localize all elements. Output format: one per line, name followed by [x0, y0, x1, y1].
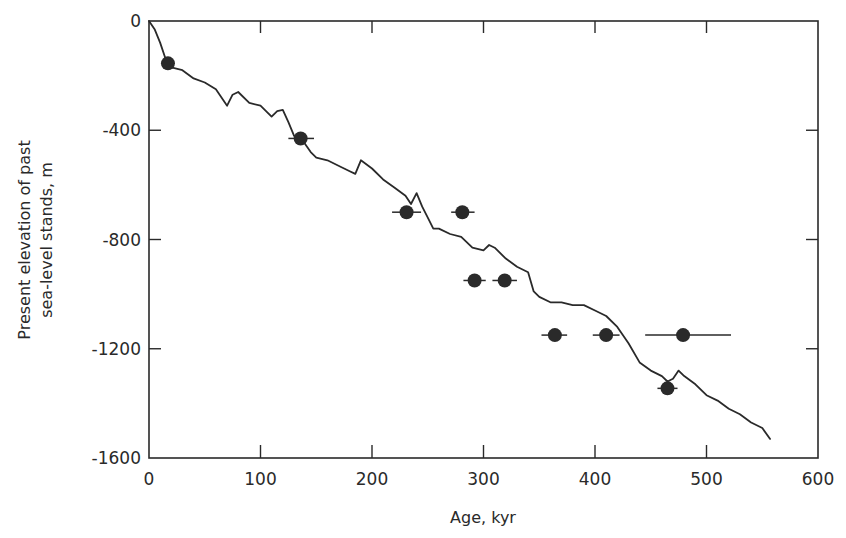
- y-tick-label: -1600: [92, 448, 141, 468]
- point-marker: [498, 273, 512, 287]
- x-tick-label: 400: [579, 469, 611, 489]
- data-point: [161, 56, 175, 70]
- data-point: [392, 205, 421, 219]
- point-marker: [599, 328, 613, 342]
- point-marker: [468, 273, 482, 287]
- x-axis-title: Age, kyr: [450, 508, 516, 527]
- x-tick-label: 600: [802, 469, 834, 489]
- point-marker: [400, 205, 414, 219]
- plot-border: [149, 21, 818, 458]
- data-point: [451, 205, 474, 219]
- x-tick-label: 500: [690, 469, 722, 489]
- data-point: [463, 273, 485, 287]
- y-tick-label: -800: [102, 230, 141, 250]
- x-tick-label: 0: [144, 469, 155, 489]
- y-axis-title-line2: sea-level stands, m: [37, 162, 56, 318]
- chart: 0100200300400500600 0-400-800-1200-1600 …: [0, 0, 846, 538]
- y-tick-label: -400: [102, 120, 141, 140]
- point-marker: [676, 328, 690, 342]
- elevation-curve: [149, 21, 770, 439]
- data-point: [593, 328, 620, 342]
- plot-frame: [149, 21, 818, 458]
- x-tick-label: 100: [244, 469, 276, 489]
- y-tick-label: 0: [130, 11, 141, 31]
- data-points: [161, 56, 731, 395]
- y-axis-title-line1: Present elevation of past: [15, 140, 34, 339]
- data-point: [645, 328, 731, 342]
- y-axis: 0-400-800-1200-1600: [92, 11, 818, 468]
- x-tick-label: 300: [467, 469, 499, 489]
- x-axis: 0100200300400500600: [144, 21, 835, 489]
- data-point: [657, 381, 677, 395]
- point-marker: [455, 205, 469, 219]
- data-point: [541, 328, 567, 342]
- point-marker: [548, 328, 562, 342]
- x-tick-label: 200: [356, 469, 388, 489]
- data-point: [492, 273, 517, 287]
- point-marker: [161, 56, 175, 70]
- point-marker: [660, 381, 674, 395]
- point-marker: [294, 131, 308, 145]
- elevation-curve-path: [149, 21, 770, 439]
- y-tick-label: -1200: [92, 339, 141, 359]
